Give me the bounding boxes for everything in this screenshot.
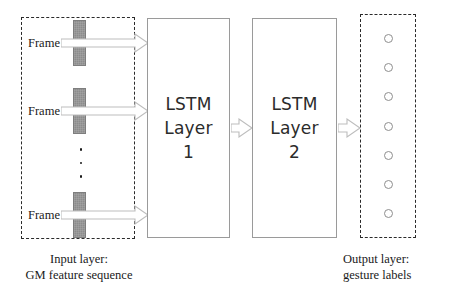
lstm-layer-1-line1: LSTM	[165, 94, 211, 114]
input-caption-line-2: GM feature sequence	[13, 267, 145, 283]
ellipsis-dot	[80, 148, 83, 151]
lstm-layer-2-line3: 2	[289, 142, 300, 162]
arrow-frame-2-to-lstm1	[61, 101, 149, 121]
lstm-layer-2-line1: LSTM	[271, 94, 317, 114]
ellipsis-dot	[80, 175, 83, 178]
lstm-layer-2-line2: Layer	[270, 118, 318, 138]
input-caption-line-1: Input layer:	[13, 251, 145, 267]
output-caption-line-2: gesture labels	[343, 267, 443, 283]
lstm-layer-1-line2: Layer	[164, 118, 212, 138]
arrow-lstm1-to-lstm2	[231, 118, 253, 138]
output-layer-boundary	[360, 14, 416, 238]
vertical-ellipsis-icon	[74, 148, 88, 178]
lstm-layer-1-label: LSTM Layer 1	[164, 92, 212, 164]
lstm-layer-2-label: LSTM Layer 2	[270, 92, 318, 164]
arrow-frame-t-to-lstm1	[61, 205, 149, 225]
diagram-canvas: Frame 1 Frame 2 Frame T LSTM L	[0, 0, 453, 304]
input-layer-caption: Input layer: GM feature sequence	[13, 251, 145, 283]
arrow-frame-1-to-lstm1	[61, 33, 149, 53]
output-caption-line-1: Output layer:	[343, 251, 443, 267]
lstm-layer-2-box: LSTM Layer 2	[252, 18, 337, 238]
ellipsis-dot	[80, 162, 83, 165]
output-layer-caption: Output layer: gesture labels	[343, 251, 443, 283]
arrow-lstm2-to-output	[338, 118, 361, 138]
lstm-layer-1-box: LSTM Layer 1	[147, 18, 230, 238]
lstm-layer-1-line3: 1	[183, 142, 194, 162]
